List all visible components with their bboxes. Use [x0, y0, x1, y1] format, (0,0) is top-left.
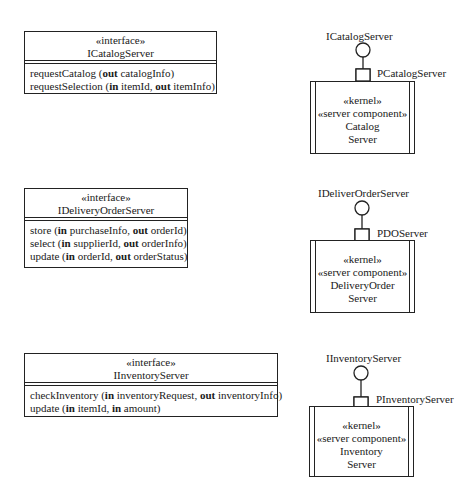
component-text: «kernel» «server component» Inventory Se… [310, 419, 413, 471]
provided-interface-label: IDeliverOrderServer [318, 187, 409, 200]
component-name: DeliveryOrder [311, 279, 414, 292]
component-stereotype-server: «server component» [310, 432, 413, 445]
port-label: PInventoryServer [376, 393, 454, 406]
component-stereotype-kernel: «kernel» [310, 419, 413, 432]
component-stereotype-kernel: «kernel» [311, 253, 414, 266]
component-name: Server [310, 458, 413, 471]
component-inventory-server: «kernel» «server component» Inventory Se… [309, 406, 414, 477]
component-text: «kernel» «server component» DeliveryOrde… [311, 253, 414, 305]
component-deliveryorder-server: «kernel» «server component» DeliveryOrde… [310, 240, 415, 313]
component-name: Server [311, 292, 414, 305]
component-name: Inventory [310, 445, 413, 458]
component-stereotype-server: «server component» [311, 266, 414, 279]
provided-interface-label: IInventoryServer [326, 352, 401, 365]
port-label: PDOServer [377, 227, 428, 240]
